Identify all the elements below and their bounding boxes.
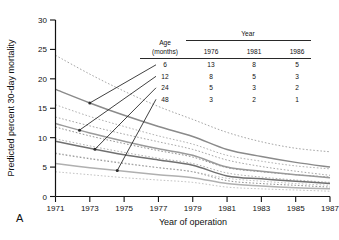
table-col-group-header: Year: [241, 30, 255, 37]
table-cell: 5: [295, 61, 299, 68]
x-tick-label: 1977: [150, 204, 168, 213]
table-cell: 2: [252, 96, 256, 103]
table-column-header: 1986: [290, 48, 305, 55]
table-cell: 8: [209, 73, 213, 80]
table-row-header: Age: [159, 39, 171, 47]
x-tick-label: 1971: [47, 204, 65, 213]
x-tick-label: 1983: [252, 204, 270, 213]
table-row-age-label: 6: [163, 61, 167, 68]
leader-endpoint-age-12: [78, 129, 81, 132]
y-tick-label: 0: [43, 193, 48, 202]
table-cell: 13: [207, 61, 215, 68]
x-tick-label: 1987: [321, 204, 339, 213]
table-cell: 5: [209, 84, 213, 91]
x-tick-label: 1981: [218, 204, 236, 213]
y-tick-label: 10: [38, 134, 47, 143]
table-cell: 2: [295, 84, 299, 91]
y-tick-label: 20: [38, 75, 47, 84]
table-cell: 3: [295, 73, 299, 80]
table-cell: 1: [295, 96, 299, 103]
table-row-age-label: 48: [161, 96, 169, 103]
table-cell: 3: [209, 96, 213, 103]
table-row-header-sub: (months): [152, 48, 178, 56]
y-tick-label: 25: [38, 45, 47, 54]
y-tick-label: 15: [38, 104, 47, 113]
leader-endpoint-age-24: [93, 148, 96, 151]
figure-panel-a: 051015202530 197119731975197719791981198…: [0, 0, 339, 240]
y-tick-label: 30: [38, 16, 47, 25]
y-tick-label: 5: [43, 163, 48, 172]
table-cell: 5: [252, 73, 256, 80]
x-tick-label: 1979: [184, 204, 202, 213]
table-cell: 8: [252, 61, 256, 68]
leader-endpoint-age-48: [116, 169, 119, 172]
table-row-age-label: 12: [161, 73, 169, 80]
x-tick-label: 1973: [81, 204, 99, 213]
table-row-age-label: 24: [161, 84, 169, 91]
mortality-line-chart: 051015202530 197119731975197719791981198…: [0, 0, 339, 240]
table-cell: 3: [252, 84, 256, 91]
y-axis-title: Predicted percent 30-day mortality: [6, 39, 16, 177]
leader-endpoint-age-6: [88, 101, 91, 104]
table-column-header: 1976: [204, 48, 219, 55]
x-tick-label: 1985: [287, 204, 305, 213]
panel-label: A: [16, 212, 24, 224]
x-tick-label: 1975: [115, 204, 133, 213]
table-column-header: 1981: [247, 48, 262, 55]
x-axis-title: Year of operation: [159, 217, 227, 227]
